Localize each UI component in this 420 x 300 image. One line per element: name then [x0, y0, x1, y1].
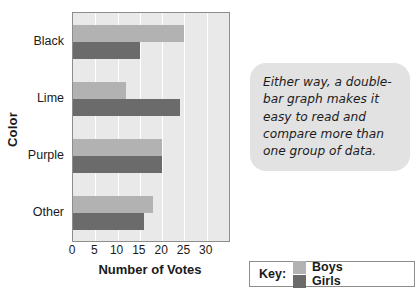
bar-other-boys [73, 196, 153, 213]
x-tick-label: 0 [69, 243, 76, 257]
x-tick-label: 10 [110, 243, 123, 257]
bar-black-boys [73, 25, 184, 42]
x-tick-label: 25 [177, 243, 190, 257]
bars-layer [73, 13, 229, 241]
bar-other-girls [73, 213, 144, 230]
x-tick-label: 15 [132, 243, 145, 257]
x-tick-label: 30 [199, 243, 212, 257]
legend-entries: BoysGirls [293, 260, 354, 288]
bar-black-girls [73, 42, 140, 59]
callout-note: Either way, a double-bar graph makes it … [250, 63, 410, 171]
legend-entry-girls: Girls [293, 274, 343, 288]
bar-lime-boys [73, 82, 126, 99]
x-tick-label: 5 [91, 243, 98, 257]
x-tick-label: 20 [154, 243, 167, 257]
y-axis-title: Color [5, 100, 20, 160]
category-label: Lime [20, 69, 68, 126]
x-axis-title: Number of Votes [52, 262, 248, 277]
legend-label: Boys [312, 260, 343, 274]
bar-lime-girls [73, 99, 180, 116]
legend-swatch-icon [293, 261, 306, 274]
category-label: Purple [20, 126, 68, 183]
category-axis-labels: BlackLimePurpleOther [20, 12, 68, 240]
legend-title: Key: [259, 267, 286, 281]
category-label: Black [20, 12, 68, 69]
plot-area [72, 12, 230, 242]
bar-purple-boys [73, 139, 162, 156]
legend-label: Girls [312, 274, 341, 288]
bar-purple-girls [73, 156, 162, 173]
legend-entry-boys: Boys [293, 260, 343, 274]
category-label: Other [20, 183, 68, 240]
bar-chart-figure: Color BlackLimePurpleOther 051015202530 … [0, 0, 240, 300]
x-axis-tick-labels: 051015202530 [72, 243, 228, 259]
chart-legend: Key: BoysGirls [249, 261, 415, 287]
legend-swatch-icon [293, 275, 306, 288]
